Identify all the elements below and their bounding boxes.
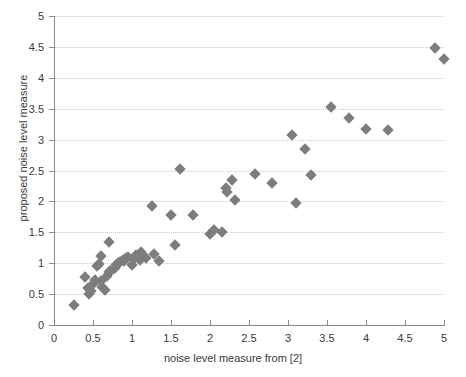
x-axis-tick-label: 3.5 xyxy=(312,332,342,344)
x-axis-tick xyxy=(288,320,289,325)
y-axis-tick-label: 0.5 xyxy=(10,288,44,300)
gridline-horizontal xyxy=(54,47,444,48)
data-point-marker xyxy=(343,112,354,123)
data-point-marker xyxy=(165,209,176,220)
x-axis-tick xyxy=(210,320,211,325)
y-axis-tick-label: 5 xyxy=(10,10,44,22)
data-point-marker xyxy=(175,164,186,175)
gridline-horizontal xyxy=(54,232,444,233)
x-axis-tick-label: 2.5 xyxy=(234,332,264,344)
y-axis-tick-label: 0 xyxy=(10,319,44,331)
y-axis-title: proposed noise level measure xyxy=(17,48,29,248)
x-axis-tick-label: 0 xyxy=(39,332,69,344)
x-axis-tick xyxy=(444,320,445,325)
x-axis-tick-label: 2 xyxy=(195,332,225,344)
x-axis-tick xyxy=(93,320,94,325)
y-axis-tick xyxy=(49,109,54,110)
data-point-marker xyxy=(382,125,393,136)
x-axis-tick-label: 1 xyxy=(117,332,147,344)
data-point-marker xyxy=(290,198,301,209)
data-point-marker xyxy=(68,299,79,310)
x-axis-tick-label: 4 xyxy=(351,332,381,344)
gridline-horizontal xyxy=(54,294,444,295)
x-axis-tick xyxy=(54,320,55,325)
y-axis-tick xyxy=(49,78,54,79)
data-point-marker xyxy=(154,256,165,267)
y-axis-tick xyxy=(49,171,54,172)
x-axis-tick xyxy=(171,320,172,325)
gridline-horizontal xyxy=(54,16,444,17)
data-point-marker xyxy=(103,236,114,247)
x-axis-tick-label: 5 xyxy=(429,332,459,344)
data-point-marker xyxy=(325,102,336,113)
gridline-horizontal xyxy=(54,201,444,202)
y-axis-tick xyxy=(49,16,54,17)
x-axis-tick xyxy=(132,320,133,325)
data-point-marker xyxy=(429,42,440,53)
x-axis-tick-label: 1.5 xyxy=(156,332,186,344)
data-point-marker xyxy=(299,143,310,154)
data-point-marker xyxy=(267,177,278,188)
scatter-plot-figure: 00.511.522.533.544.55 00.511.522.533.544… xyxy=(0,0,466,377)
gridline-horizontal xyxy=(54,171,444,172)
x-axis-line xyxy=(54,325,445,326)
data-point-marker xyxy=(360,123,371,134)
x-axis-tick xyxy=(249,320,250,325)
y-axis-line xyxy=(54,16,55,326)
y-axis-tick xyxy=(49,47,54,48)
x-axis-tick xyxy=(366,320,367,325)
y-axis-tick xyxy=(49,201,54,202)
x-axis-title: noise level measure from [2] xyxy=(0,352,466,364)
y-axis-tick xyxy=(49,263,54,264)
gridline-horizontal xyxy=(54,140,444,141)
y-axis-tick xyxy=(49,294,54,295)
y-axis-tick xyxy=(49,232,54,233)
gridline-horizontal xyxy=(54,78,444,79)
x-axis-tick-label: 3 xyxy=(273,332,303,344)
x-axis-tick-label: 0.5 xyxy=(78,332,108,344)
data-point-marker xyxy=(229,194,240,205)
y-axis-tick-label: 1 xyxy=(10,257,44,269)
gridline-horizontal xyxy=(54,109,444,110)
x-axis-tick xyxy=(327,320,328,325)
data-point-marker xyxy=(169,239,180,250)
data-point-marker xyxy=(187,209,198,220)
y-axis-tick xyxy=(49,140,54,141)
plot-area xyxy=(54,16,444,325)
x-axis-tick xyxy=(405,320,406,325)
y-axis-tick xyxy=(49,325,54,326)
data-point-marker xyxy=(438,54,449,65)
x-axis-tick-label: 4.5 xyxy=(390,332,420,344)
